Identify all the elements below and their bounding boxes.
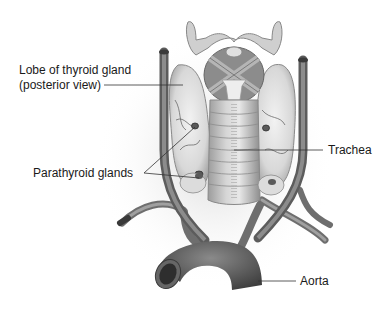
trachea — [208, 100, 260, 205]
label-parathyroid: Parathyroid glands — [33, 166, 133, 181]
label-thyroid-line2: (posterior view) — [19, 78, 131, 93]
diagram-canvas: Lobe of thyroid gland (posterior view) P… — [0, 0, 391, 312]
label-thyroid-line1: Lobe of thyroid gland — [19, 63, 131, 78]
label-thyroid-lobe: Lobe of thyroid gland (posterior view) — [19, 63, 131, 93]
label-trachea: Trachea — [328, 143, 372, 158]
label-aorta: Aorta — [300, 274, 329, 289]
